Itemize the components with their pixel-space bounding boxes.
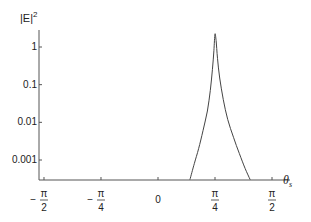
x-tick-label: π4 [211, 188, 219, 213]
x-tick-denominator: 2 [269, 202, 275, 213]
x-tick-zero: 0 [155, 194, 161, 205]
y-tick-label: 0.1 [23, 79, 37, 90]
series-line [190, 34, 250, 180]
x-tick-label: π2 [268, 188, 276, 213]
y-tick-label: 1 [31, 41, 37, 52]
x-tick-numerator: π [269, 188, 276, 199]
x-tick-sign: − [30, 194, 36, 205]
x-axis-label: θs [283, 173, 292, 189]
y-tick-label: 0.01 [18, 116, 38, 127]
x-tick-sign: − [87, 194, 93, 205]
x-ticks: π2−π4−0π4π2 [30, 177, 276, 213]
chart: 10.10.010.001 π2−π4−0π4π2 |E|2 θs [0, 0, 311, 222]
x-tick-label: π4− [87, 188, 105, 213]
y-tick-label: 0.001 [12, 154, 37, 165]
y-axis-label: |E|2 [20, 10, 38, 24]
axes [39, 30, 290, 180]
x-tick-numerator: π [98, 188, 105, 199]
x-tick-label: 0 [155, 194, 161, 205]
x-tick-numerator: π [212, 188, 219, 199]
x-tick-label: π2− [30, 188, 48, 213]
x-tick-denominator: 4 [212, 202, 218, 213]
x-tick-denominator: 4 [98, 202, 104, 213]
x-tick-denominator: 2 [41, 202, 47, 213]
y-ticks: 10.10.010.001 [12, 41, 42, 165]
x-tick-numerator: π [41, 188, 48, 199]
